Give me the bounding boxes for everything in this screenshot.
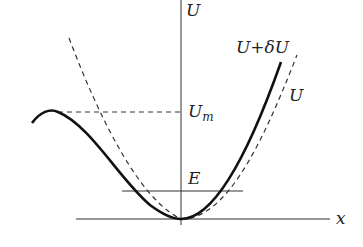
energy-level-label: E: [187, 168, 201, 188]
potential-energy-diagram: U x U+δU U Um E: [0, 0, 363, 247]
perturbed-potential-curve: [32, 62, 281, 219]
y-axis-label: U: [186, 0, 201, 20]
perturbed-curve-label: U+δU: [236, 37, 290, 57]
original-curve-label: U: [289, 85, 304, 105]
barrier-level-label: Um: [188, 101, 214, 124]
original-potential-curve: [69, 38, 297, 219]
diagram-svg: U x U+δU U Um E: [0, 0, 363, 247]
x-axis-label: x: [336, 208, 346, 228]
